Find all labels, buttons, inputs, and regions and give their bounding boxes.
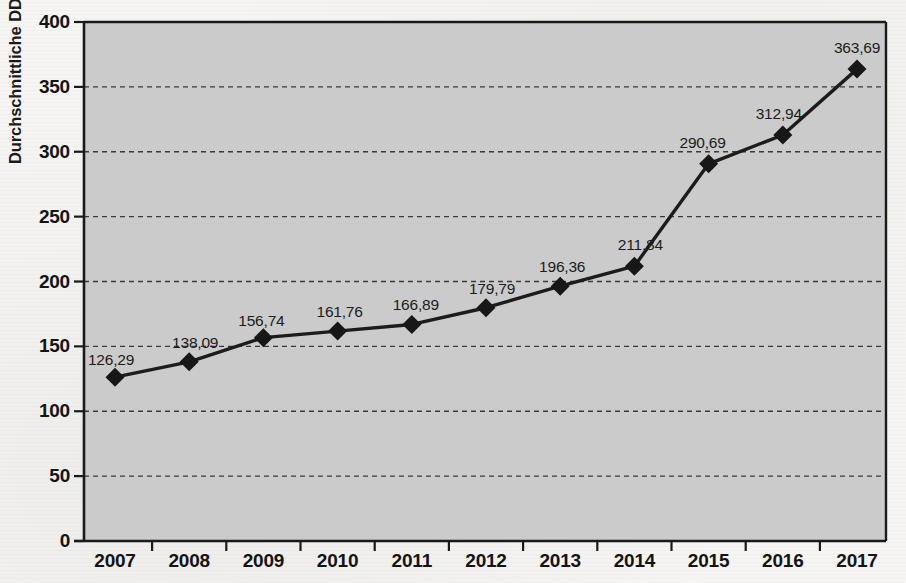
y-tick-label-400: 400	[18, 11, 70, 33]
value-label-2015: 290,69	[679, 134, 725, 152]
y-tick-label-50: 50	[18, 465, 70, 487]
value-label-2016: 312,94	[756, 105, 802, 123]
y-tick-label-300: 300	[18, 141, 70, 163]
value-label-2010: 161,76	[316, 303, 362, 321]
x-tick-label-2011: 2011	[392, 550, 432, 572]
value-label-2007: 126,29	[88, 351, 134, 369]
line-chart-figure: Durchschnittliche DDD-Kosten in € 050100…	[0, 0, 906, 583]
value-label-2011: 166,89	[393, 296, 439, 314]
y-axis-tick-labels: 050100150200250300350400	[14, 0, 70, 583]
value-label-2012: 179,79	[469, 280, 515, 298]
x-tick-label-2009: 2009	[243, 550, 284, 572]
value-label-2013: 196,36	[539, 258, 585, 276]
plot-canvas	[0, 0, 906, 583]
x-tick-label-2013: 2013	[539, 550, 580, 572]
value-label-2014: 211,84	[618, 236, 663, 254]
y-tick-label-350: 350	[18, 76, 70, 98]
x-tick-label-2016: 2016	[762, 550, 803, 572]
y-tick-label-200: 200	[18, 271, 70, 293]
x-tick-label-2007: 2007	[94, 550, 135, 572]
y-tick-label-100: 100	[18, 400, 70, 422]
y-tick-label-150: 150	[18, 335, 70, 357]
x-tick-label-2017: 2017	[836, 550, 877, 572]
x-tick-label-2012: 2012	[465, 550, 506, 572]
x-tick-label-2010: 2010	[317, 550, 358, 572]
y-tick-label-0: 0	[18, 530, 70, 552]
x-tick-label-2015: 2015	[688, 550, 729, 572]
value-label-2008: 138,09	[172, 334, 218, 352]
x-tick-label-2008: 2008	[168, 550, 209, 572]
y-tick-label-250: 250	[18, 206, 70, 228]
x-tick-label-2014: 2014	[614, 550, 655, 572]
value-label-2017: 363,69	[834, 39, 880, 57]
value-label-2009: 156,74	[238, 312, 284, 330]
